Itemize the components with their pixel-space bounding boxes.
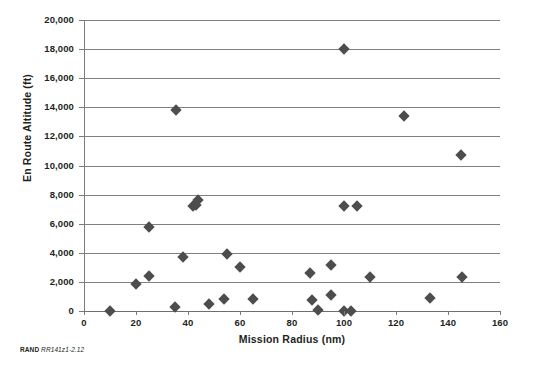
y-tick-mark: [79, 49, 84, 50]
y-tick-label: 10,000: [8, 161, 74, 171]
gridline-y: [84, 20, 500, 21]
y-tick-mark: [79, 166, 84, 167]
data-point: [312, 305, 323, 316]
y-axis-title: En Route Altitude (ft): [21, 38, 33, 218]
x-tick-label: 100: [324, 317, 364, 328]
data-point: [325, 259, 336, 270]
scatter-chart-figure: 02,0004,0006,0008,00010,00012,00014,0001…: [0, 0, 537, 372]
gridline-y: [84, 107, 500, 108]
y-tick-label: 6,000: [8, 219, 74, 229]
y-tick-mark: [79, 107, 84, 108]
y-tick-label: 16,000: [8, 73, 74, 83]
data-point: [455, 150, 466, 161]
data-point: [338, 201, 349, 212]
data-point: [364, 271, 375, 282]
gridline-y: [84, 78, 500, 79]
y-tick-label: 14,000: [8, 102, 74, 112]
x-tick-mark: [240, 311, 241, 315]
x-tick-label: 40: [168, 317, 208, 328]
data-point: [234, 262, 245, 273]
y-tick-mark: [79, 78, 84, 79]
y-tick-label: 20,000: [8, 15, 74, 25]
x-tick-label: 160: [480, 317, 520, 328]
data-point: [305, 267, 316, 278]
gridline-y: [84, 195, 500, 196]
data-point: [143, 270, 154, 281]
data-point: [325, 289, 336, 300]
y-tick-mark: [79, 20, 84, 21]
x-axis-title: Mission Radius (nm): [84, 333, 500, 345]
x-tick-label: 0: [64, 317, 104, 328]
gridline-y: [84, 49, 500, 50]
gridline-y: [84, 282, 500, 283]
data-point: [203, 298, 214, 309]
data-point: [424, 292, 435, 303]
data-point: [398, 110, 409, 121]
data-point: [130, 278, 141, 289]
credit-id: RR141z1-2.12: [41, 346, 84, 353]
y-tick-mark: [79, 136, 84, 137]
x-tick-mark: [500, 311, 501, 315]
y-tick-mark: [79, 253, 84, 254]
y-tick-label: 12,000: [8, 131, 74, 141]
gridline-y: [84, 136, 500, 137]
y-tick-label: 4,000: [8, 248, 74, 258]
data-point: [219, 294, 230, 305]
data-point: [351, 201, 362, 212]
x-tick-mark: [344, 311, 345, 315]
y-tick-mark: [79, 282, 84, 283]
x-tick-mark: [136, 311, 137, 315]
gridline-y: [84, 253, 500, 254]
data-point: [171, 105, 182, 116]
y-tick-mark: [79, 195, 84, 196]
x-tick-label: 60: [220, 317, 260, 328]
data-point: [221, 249, 232, 260]
x-tick-mark: [188, 311, 189, 315]
y-tick-mark: [79, 224, 84, 225]
y-tick-label: 0: [8, 306, 74, 316]
y-tick-label: 18,000: [8, 44, 74, 54]
plot-area: [84, 20, 500, 311]
figure-credit: RAND RR141z1-2.12: [20, 346, 84, 353]
data-point: [247, 293, 258, 304]
data-point: [457, 271, 468, 282]
gridline-y: [84, 166, 500, 167]
credit-brand: RAND: [20, 346, 39, 353]
x-tick-mark: [448, 311, 449, 315]
x-tick-label: 120: [376, 317, 416, 328]
x-tick-mark: [396, 311, 397, 315]
x-tick-label: 140: [428, 317, 468, 328]
y-tick-label: 2,000: [8, 277, 74, 287]
x-tick-mark: [292, 311, 293, 315]
data-point: [104, 305, 115, 316]
data-point: [338, 43, 349, 54]
y-tick-label: 8,000: [8, 190, 74, 200]
x-tick-mark: [84, 311, 85, 315]
x-tick-label: 80: [272, 317, 312, 328]
x-tick-label: 20: [116, 317, 156, 328]
data-point: [306, 294, 317, 305]
